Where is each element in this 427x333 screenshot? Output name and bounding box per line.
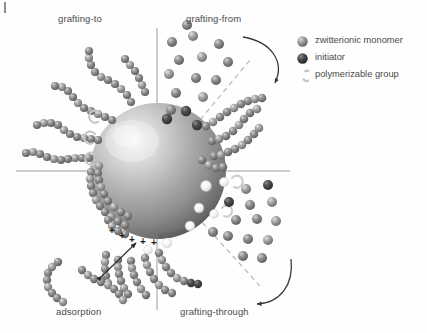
- svg-text:+: +: [119, 230, 125, 241]
- polymer-chain: [85, 47, 135, 106]
- grafting-through-curved-arrow: [257, 259, 291, 304]
- polymer-chain: [22, 148, 93, 164]
- polymer-chain: [51, 82, 116, 124]
- label-grafting-to: grafting-to: [58, 14, 102, 24]
- grafting-from-curved-arrow: [243, 37, 278, 83]
- legend-label: zwitterionic monomer: [315, 36, 403, 45]
- legend: zwitterionic monomer initiator: [296, 32, 403, 83]
- crescent-hook-icon: [296, 68, 309, 81]
- svg-text:+: +: [109, 225, 115, 236]
- polymer-chain: [43, 258, 67, 306]
- label-grafting-through: grafting-through: [180, 307, 249, 317]
- svg-text:+: +: [151, 237, 157, 248]
- free-monomers-grafting-from: [164, 20, 233, 115]
- figure-root: + + + + +: [0, 0, 427, 333]
- svg-text:+: +: [129, 234, 135, 245]
- svg-text:+: +: [140, 236, 146, 247]
- sphere-light-icon: [296, 34, 309, 47]
- label-grafting-from: grafting-from: [186, 14, 241, 24]
- legend-item-polymerizable-group: polymerizable group: [296, 66, 403, 83]
- polymer-chain: [121, 55, 149, 96]
- label-adsorption: adsorption: [56, 307, 101, 317]
- legend-label: initiator: [315, 53, 345, 62]
- legend-item-initiator: initiator: [296, 49, 403, 66]
- legend-item-zwitterionic-monomer: zwitterionic monomer: [296, 32, 403, 49]
- sphere-dark-icon: [296, 51, 309, 64]
- legend-label: polymerizable group: [315, 70, 399, 79]
